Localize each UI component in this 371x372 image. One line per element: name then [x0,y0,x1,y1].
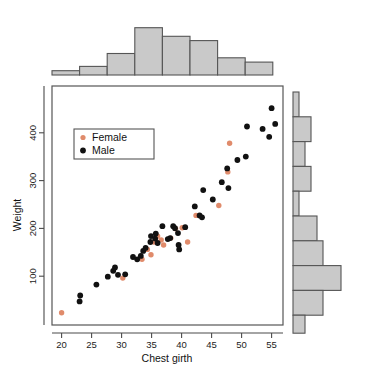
data-point-male [143,245,149,251]
top-hist-bar [80,66,108,75]
data-point-female [216,203,221,208]
data-point-male [153,231,159,237]
data-point-female [148,252,153,257]
right-hist-bar [293,290,323,315]
data-point-male [105,274,111,280]
legend-marker-female [80,135,85,140]
x-tick-label: 35 [146,339,157,350]
x-tick-label: 50 [236,339,247,350]
data-point-male [122,271,128,277]
right-hist-bar [293,266,341,291]
legend-marker-male [80,148,86,154]
right-hist-bar [293,216,317,241]
top-hist-bar [245,62,273,75]
scatter-with-marginal-histograms: Female Male 20 25 30 35 40 45 50 55 Ches… [0,0,371,372]
right-hist-bar [293,241,323,266]
y-tick-label: 200 [27,220,38,236]
top-hist-bar [162,36,190,75]
data-point-male [155,240,161,246]
right-hist-bar [293,191,299,216]
top-hist-bar [107,54,135,76]
right-hist-bar [293,142,305,167]
data-point-male [200,187,206,193]
legend-label-female: Female [92,131,127,143]
y-tick-label: 400 [27,125,38,141]
data-point-male [176,247,182,253]
data-point-male [226,185,232,191]
x-tick-label: 45 [206,339,217,350]
y-axis-label: Weight [11,199,23,232]
x-tick-label: 25 [86,339,97,350]
y-tick-label: 300 [27,173,38,189]
data-point-male [182,224,188,230]
data-point-male [199,214,205,220]
data-point-female [227,141,232,146]
y-tick-label: 100 [27,268,38,284]
data-point-male [172,225,178,231]
data-point-female [59,310,64,315]
data-point-male [266,134,272,140]
x-tick-label: 55 [266,339,277,350]
data-point-male [77,293,83,299]
data-point-male [167,235,173,241]
data-point-male [224,166,230,172]
data-point-male [77,299,83,305]
right-hist-bar [293,166,311,191]
data-point-male [219,179,225,185]
data-point-male [260,126,266,132]
top-hist-bar [135,28,163,75]
figure-canvas: Female Male 20 25 30 35 40 45 50 55 Ches… [0,0,371,372]
legend-label-male: Male [92,144,115,156]
data-point-male [243,154,249,160]
legend: Female Male [74,129,154,159]
data-point-male [112,265,118,271]
right-hist-bar [293,117,311,142]
data-point-female [185,239,190,244]
data-point-male [244,124,250,130]
data-point-female [161,242,166,247]
data-point-male [148,239,154,245]
top-hist-bar [52,71,80,75]
x-tick-label: 20 [56,339,67,350]
data-point-male [269,105,275,111]
data-point-male [235,157,241,163]
data-point-male [192,204,198,210]
right-hist-bar [293,315,305,333]
top-hist-bar [190,41,218,75]
data-point-male [210,197,216,203]
data-point-male [160,223,166,229]
right-hist-bar [293,92,299,117]
top-hist-bar [218,58,246,75]
x-axis-label: Chest girth [142,352,193,364]
data-point-male [272,121,278,127]
data-point-male [94,282,100,288]
data-point-male [138,253,144,259]
data-point-male [115,272,121,278]
x-tick-label: 30 [116,339,127,350]
data-point-male [175,230,181,236]
x-tick-label: 40 [176,339,187,350]
